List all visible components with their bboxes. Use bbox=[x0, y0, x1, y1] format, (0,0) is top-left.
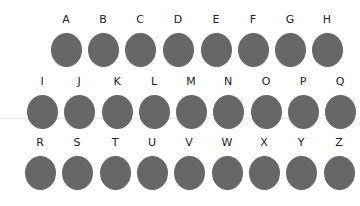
circle-item-u[interactable]: U bbox=[136, 136, 168, 190]
circle-label: X bbox=[248, 136, 280, 150]
circle-item-t[interactable]: T bbox=[99, 136, 131, 190]
circle-label: R bbox=[24, 136, 56, 150]
circle-item-z[interactable]: Z bbox=[323, 136, 355, 190]
circle-button[interactable] bbox=[125, 33, 156, 67]
circle-label: G bbox=[274, 13, 306, 27]
circle-button[interactable] bbox=[100, 156, 131, 190]
circle-button[interactable] bbox=[325, 95, 356, 129]
circle-label: I bbox=[26, 75, 58, 89]
circle-label: V bbox=[173, 136, 205, 150]
circle-label: Z bbox=[323, 136, 355, 150]
circle-button[interactable] bbox=[88, 33, 119, 67]
circle-label: S bbox=[61, 136, 93, 150]
circle-item-c[interactable]: C bbox=[124, 13, 156, 67]
circle-label: Y bbox=[285, 136, 317, 150]
circle-item-i[interactable]: I bbox=[26, 75, 58, 129]
circle-button[interactable] bbox=[312, 33, 343, 67]
circle-label: C bbox=[124, 13, 156, 27]
circle-item-s[interactable]: S bbox=[61, 136, 93, 190]
circle-item-j[interactable]: J bbox=[63, 75, 95, 129]
circle-label: J bbox=[63, 75, 95, 89]
circle-button[interactable] bbox=[25, 156, 56, 190]
circle-item-k[interactable]: K bbox=[101, 75, 133, 129]
circle-button[interactable] bbox=[213, 95, 244, 129]
circle-button[interactable] bbox=[201, 33, 232, 67]
circle-item-m[interactable]: M bbox=[175, 75, 207, 129]
circle-button[interactable] bbox=[64, 95, 95, 129]
circle-item-r[interactable]: R bbox=[24, 136, 56, 190]
circle-button[interactable] bbox=[324, 156, 355, 190]
circle-label: M bbox=[175, 75, 207, 89]
circle-button[interactable] bbox=[163, 33, 194, 67]
circle-button[interactable] bbox=[62, 156, 93, 190]
circle-button[interactable] bbox=[251, 95, 282, 129]
circle-item-f[interactable]: F bbox=[237, 13, 269, 67]
circle-label: L bbox=[138, 75, 170, 89]
circle-label: O bbox=[250, 75, 282, 89]
circle-label: A bbox=[50, 13, 82, 27]
circle-item-e[interactable]: E bbox=[200, 13, 232, 67]
circle-button[interactable] bbox=[176, 95, 207, 129]
circle-item-g[interactable]: G bbox=[274, 13, 306, 67]
circle-label: B bbox=[87, 13, 119, 27]
circle-label: K bbox=[101, 75, 133, 89]
circle-button[interactable] bbox=[27, 95, 58, 129]
circle-label: T bbox=[99, 136, 131, 150]
circle-button[interactable] bbox=[286, 156, 317, 190]
circle-item-x[interactable]: X bbox=[248, 136, 280, 190]
circle-label: N bbox=[212, 75, 244, 89]
circle-button[interactable] bbox=[102, 95, 133, 129]
circle-item-l[interactable]: L bbox=[138, 75, 170, 129]
circle-item-b[interactable]: B bbox=[87, 13, 119, 67]
circle-item-p[interactable]: P bbox=[287, 75, 319, 129]
circle-button[interactable] bbox=[238, 33, 269, 67]
circle-label: E bbox=[200, 13, 232, 27]
circle-label: H bbox=[311, 13, 343, 27]
circle-label: F bbox=[237, 13, 269, 27]
circle-button[interactable] bbox=[139, 95, 170, 129]
circle-button[interactable] bbox=[51, 33, 82, 67]
circle-button[interactable] bbox=[288, 95, 319, 129]
circle-item-q[interactable]: Q bbox=[324, 75, 356, 129]
circle-label: Q bbox=[324, 75, 356, 89]
circle-button[interactable] bbox=[249, 156, 280, 190]
circle-label: P bbox=[287, 75, 319, 89]
circle-label: U bbox=[136, 136, 168, 150]
circle-button[interactable] bbox=[174, 156, 205, 190]
circle-button[interactable] bbox=[275, 33, 306, 67]
circle-item-n[interactable]: N bbox=[212, 75, 244, 129]
circle-label: D bbox=[162, 13, 194, 27]
circle-item-v[interactable]: V bbox=[173, 136, 205, 190]
circle-item-o[interactable]: O bbox=[250, 75, 282, 129]
circle-label: W bbox=[211, 136, 243, 150]
circle-item-d[interactable]: D bbox=[162, 13, 194, 67]
circle-item-h[interactable]: H bbox=[311, 13, 343, 67]
circle-item-y[interactable]: Y bbox=[285, 136, 317, 190]
letter-circle-grid: ABCDEFGHIJKLMNOPQRSTUVWXYZ bbox=[0, 0, 360, 206]
circle-item-a[interactable]: A bbox=[50, 13, 82, 67]
circle-item-w[interactable]: W bbox=[211, 136, 243, 190]
circle-button[interactable] bbox=[137, 156, 168, 190]
circle-button[interactable] bbox=[212, 156, 243, 190]
